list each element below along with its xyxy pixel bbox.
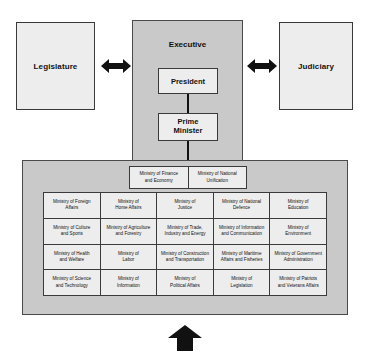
ministry-label: Ministry ofLabor (118, 251, 139, 263)
ministry-label: Ministry of GovernmentAdministration (274, 251, 321, 263)
government-structure-diagram: Legislature Executive President Prime Mi… (0, 0, 370, 355)
ministry-label: Ministry of Agricultureand Forestry (106, 225, 150, 237)
ministry-grid: Ministry of ForeignAffairsMinistry ofHom… (43, 192, 327, 296)
ministry-cell: Ministry of GovernmentAdministration (270, 245, 326, 270)
ministry-label-line2: Affairs and Fisheries (221, 257, 263, 262)
ministry-cell: Ministry of Cultureand Sports (44, 219, 100, 244)
ministry-cell: Ministry ofHome Affairs (101, 193, 157, 218)
legislature-box: Legislature (16, 22, 95, 110)
ministry-label-line1: Ministry of Foreign (53, 199, 91, 204)
ministry-cell: Ministry of ForeignAffairs (44, 193, 100, 218)
ministry-label-line1: Ministry of (231, 276, 252, 281)
ministry-label-line2: and Sports (61, 231, 83, 236)
ministry-label-line2: Industry and Energy (164, 231, 205, 236)
ministry-label-line2: Information (117, 283, 140, 288)
ministry-label: Ministry ofInformation (117, 276, 140, 288)
top-ministry-cell: Ministry of Financeand Economy (129, 166, 189, 189)
ministry-label-line2: Unification (207, 178, 228, 183)
ministry-label: Ministry of ForeignAffairs (53, 199, 91, 211)
ministry-label: Ministry ofEnvironment (285, 225, 311, 237)
double-arrow-horizontal-icon-right (247, 58, 277, 74)
ministry-label-line1: Ministry of (175, 276, 196, 281)
ministry-cell: Ministry of Scienceand Technology (44, 270, 100, 295)
ministry-cell: Ministry ofLegislation (214, 270, 270, 295)
ministry-label-line2: Home Affairs (115, 205, 141, 210)
ministry-label-line2: Defence (233, 205, 250, 210)
ministry-label-line2: Administration (284, 257, 313, 262)
ministry-label: Ministry of NationalUnification (198, 171, 237, 183)
ministry-label-line1: Ministry of (288, 225, 309, 230)
ministry-label-line1: Ministry of Finance (139, 171, 178, 176)
arrow-up-icon (168, 325, 202, 351)
prime-minister-label-line1: Prime (178, 117, 199, 126)
ministry-label: Ministry of Healthand Welfare (54, 251, 90, 263)
ministry-label: Ministry ofLegislation (231, 276, 253, 288)
ministry-label: Ministry ofPolitical Affairs (170, 276, 200, 288)
ministry-label-line1: Ministry of Health (54, 251, 90, 256)
ministry-label-line1: Ministry of (118, 251, 139, 256)
prime-minister-label-line2: Minister (174, 126, 203, 135)
ministry-cell: Ministry of NationalDefence (214, 193, 270, 218)
judiciary-box: Judiciary (279, 22, 353, 110)
ministry-label-line2: and Communication (221, 231, 262, 236)
ministry-label-line2: Justice (178, 205, 192, 210)
president-box: President (158, 68, 218, 94)
ministry-label-line1: Ministry of (288, 199, 309, 204)
ministry-label: Ministry ofEducation (288, 199, 309, 211)
ministry-label-line2: and Veterans Affairs (278, 283, 319, 288)
ministry-label-line1: Ministry of Information (219, 225, 264, 230)
ministry-label: Ministry of Trade,Industry and Energy (164, 225, 205, 237)
ministry-label-line1: Ministry of National (222, 199, 261, 204)
ministry-label-line1: Ministry of Science (53, 276, 92, 281)
ministry-label-line1: Ministry of Patriots (279, 276, 317, 281)
ministry-label: Ministry of MaritimeAffairs and Fisherie… (221, 251, 263, 263)
legislature-label: Legislature (34, 62, 78, 71)
ministry-label: Ministry of Patriotsand Veterans Affairs (278, 276, 319, 288)
prime-minister-label: Prime Minister (174, 118, 203, 136)
ministry-cell: Ministry ofPolitical Affairs (157, 270, 213, 295)
ministry-label-line2: and Technology (56, 283, 88, 288)
ministry-label: Ministry ofHome Affairs (115, 199, 141, 211)
ministry-label: Ministry of Scienceand Technology (53, 276, 92, 288)
ministry-cell: Ministry ofJustice (157, 193, 213, 218)
ministry-label: Ministry of Constructionand Transportati… (161, 251, 209, 263)
ministry-label-line2: and Economy (145, 178, 173, 183)
ministry-label: Ministry ofJustice (175, 199, 196, 211)
ministry-cell: Ministry of Healthand Welfare (44, 245, 100, 270)
ministry-label-line2: Education (288, 205, 308, 210)
ministry-label-line1: Ministry of Agriculture (106, 225, 150, 230)
top-ministry-row: Ministry of Financeand EconomyMinistry o… (129, 166, 247, 189)
ministry-cell: Ministry of MaritimeAffairs and Fisherie… (214, 245, 270, 270)
ministry-label-line1: Ministry of Construction (161, 251, 209, 256)
ministry-cell: Ministry ofEnvironment (270, 219, 326, 244)
ministry-label: Ministry of Informationand Communication (219, 225, 264, 237)
ministry-label-line1: Ministry of Trade, (167, 225, 202, 230)
ministry-label-line2: and Welfare (59, 257, 84, 262)
ministry-cell: Ministry ofInformation (101, 270, 157, 295)
ministry-label: Ministry of Cultureand Sports (53, 225, 90, 237)
ministry-label-line2: and Transportation (166, 257, 204, 262)
ministry-cell: Ministry of Constructionand Transportati… (157, 245, 213, 270)
ministry-label-line1: Ministry of (118, 199, 139, 204)
ministry-label: Ministry of Financeand Economy (139, 171, 178, 183)
ministry-label-line1: Ministry of Culture (53, 225, 90, 230)
ministry-cell: Ministry of Patriotsand Veterans Affairs (270, 270, 326, 295)
ministry-label-line2: Political Affairs (170, 283, 200, 288)
ministry-label-line2: Affairs (65, 205, 78, 210)
ministry-cell: Ministry of Informationand Communication (214, 219, 270, 244)
ministry-label-line1: Ministry of Maritime (222, 251, 262, 256)
ministry-label-line2: Legislation (231, 283, 253, 288)
ministry-cell: Ministry ofEducation (270, 193, 326, 218)
connector-president-prime-minister (187, 94, 189, 113)
ministry-cell: Ministry of Agricultureand Forestry (101, 219, 157, 244)
ministry-label-line1: Ministry of Government (274, 251, 321, 256)
ministry-label-line2: and Forestry (115, 231, 141, 236)
judiciary-label: Judiciary (298, 62, 334, 71)
ministry-cell: Ministry of Trade,Industry and Energy (157, 219, 213, 244)
ministry-label-line1: Ministry of National (198, 171, 237, 176)
ministry-label: Ministry of NationalDefence (222, 199, 261, 211)
ministry-label-line1: Ministry of (118, 276, 139, 281)
ministry-cell: Ministry ofLabor (101, 245, 157, 270)
ministry-label-line2: Environment (285, 231, 311, 236)
ministry-label-line2: Labor (123, 257, 135, 262)
